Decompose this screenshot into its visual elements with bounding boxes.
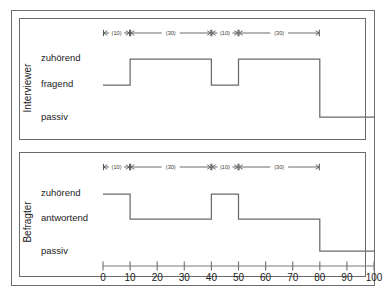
state-label: zuhörend	[41, 187, 81, 198]
axis-tick-label: 100	[366, 272, 383, 283]
state-label: zuhörend	[41, 52, 81, 63]
axis-tick-label: 0	[100, 272, 106, 283]
svg-text:(30): (30)	[166, 164, 176, 170]
axis-tick-label: 80	[314, 272, 326, 283]
state-label: fragend	[41, 78, 73, 89]
svg-text:(10): (10)	[220, 30, 230, 36]
state-label: antwortend	[41, 212, 88, 223]
panel-title: Interviewer	[22, 63, 33, 113]
panel-befragter: Befragterzuhörendantwortendpassiv(10)(30…	[20, 153, 375, 277]
svg-text:(10): (10)	[112, 30, 122, 36]
axis-tick-label: 20	[152, 272, 164, 283]
axis-tick-label: 90	[341, 272, 353, 283]
panel-title: Befragter	[22, 201, 33, 243]
axis-tick-label: 10	[125, 272, 137, 283]
svg-text:(10): (10)	[112, 164, 122, 170]
axis-tick-label: 30	[179, 272, 191, 283]
state-label: passiv	[41, 111, 68, 122]
svg-text:(30): (30)	[274, 30, 284, 36]
axis-tick-label: 40	[206, 272, 218, 283]
axis-tick-label: 50	[233, 272, 245, 283]
axis-tick-label: 70	[287, 272, 299, 283]
svg-text:(30): (30)	[166, 30, 176, 36]
svg-text:(10): (10)	[220, 164, 230, 170]
state-label: passiv	[41, 245, 68, 256]
panel-interviewer: Interviewerzuhörendfragendpassiv(10)(30)…	[20, 19, 375, 140]
timeline-figure: Interviewerzuhörendfragendpassiv(10)(30)…	[0, 0, 384, 300]
svg-text:(30): (30)	[274, 164, 284, 170]
axis-tick-label: 60	[260, 272, 272, 283]
